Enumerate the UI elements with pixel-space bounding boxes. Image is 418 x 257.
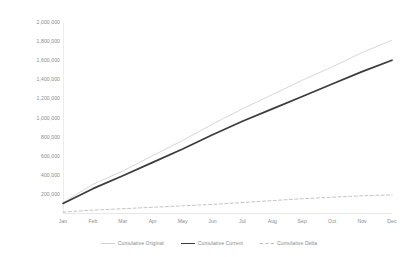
axis-lines xyxy=(63,22,392,214)
series-group xyxy=(63,40,392,212)
chart-legend: Cumulative OriginalCumulative CurrentCum… xyxy=(0,236,418,250)
legend-label: Cumulative Delta xyxy=(277,240,317,246)
x-axis-tick-label: Oct xyxy=(328,218,336,224)
legend-line-swatch xyxy=(260,241,274,245)
line-chart: 2,000,0001,800,0001,600,0001,400,0001,20… xyxy=(0,0,418,257)
x-axis-tick-label: Aug xyxy=(268,218,277,224)
series-line-cumulative-current xyxy=(63,60,392,203)
x-axis-tick-label: Apr xyxy=(149,218,157,224)
series-line-cumulative-original xyxy=(63,40,392,202)
x-axis-tick-label: Jan xyxy=(59,218,67,224)
x-axis: JanFebMarAprMayJunJulAugSepOctNovDec xyxy=(0,218,418,230)
legend-item[interactable]: Cumulative Delta xyxy=(260,240,317,246)
legend-line-swatch xyxy=(101,241,115,245)
x-axis-tick-label: Jun xyxy=(208,218,216,224)
x-axis-tick-label: Feb xyxy=(88,218,97,224)
x-axis-tick-label: Sep xyxy=(298,218,307,224)
x-axis-tick-label: Jul xyxy=(239,218,246,224)
legend-label: Cumulative Current xyxy=(198,240,243,246)
legend-item[interactable]: Cumulative Original xyxy=(101,240,164,246)
x-axis-tick-label: Mar xyxy=(118,218,127,224)
x-axis-tick-label: Dec xyxy=(387,218,396,224)
legend-item[interactable]: Cumulative Current xyxy=(181,240,243,246)
x-axis-tick-label: May xyxy=(178,218,188,224)
x-axis-tick-label: Nov xyxy=(357,218,366,224)
legend-label: Cumulative Original xyxy=(118,240,164,246)
legend-line-swatch xyxy=(181,241,195,245)
series-line-cumulative-delta xyxy=(63,195,392,212)
